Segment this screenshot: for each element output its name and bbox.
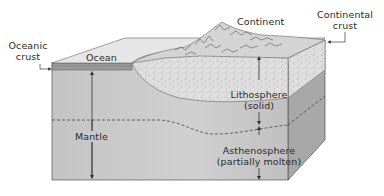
label-ocean: Ocean (86, 52, 117, 63)
label-oceanic-crust-line1: Oceanic (8, 40, 48, 51)
label-mantle: Mantle (74, 131, 109, 142)
continental-crust-leader (329, 32, 345, 42)
label-oceanic-crust-line2: crust (8, 51, 48, 62)
label-continental-crust-line2: crust (312, 20, 378, 31)
label-continent: Continent (237, 16, 284, 27)
oceanic-crust-layer (52, 63, 132, 70)
label-lithosphere: Lithosphere (solid) (222, 89, 296, 111)
label-asthenosphere-line2: (partially molten) (214, 156, 304, 167)
label-continental-crust: Continental crust (312, 9, 378, 31)
label-oceanic-crust: Oceanic crust (8, 40, 48, 62)
label-asthenosphere-line1: Asthenosphere (214, 145, 304, 156)
label-continental-crust-line1: Continental (312, 9, 378, 20)
label-lithosphere-line2: (solid) (222, 100, 296, 111)
label-asthenosphere: Asthenosphere (partially molten) (214, 145, 304, 167)
label-lithosphere-line1: Lithosphere (222, 89, 296, 100)
oceanic-crust-leader (40, 64, 50, 69)
